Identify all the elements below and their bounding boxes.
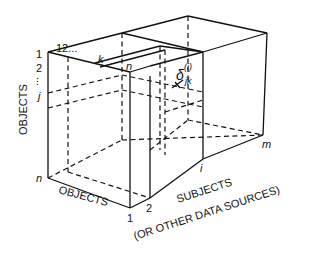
bottom-label-2: 2 [146, 202, 152, 214]
svg-text:(i): (i) [184, 62, 192, 72]
cell-label: δ (i) jk [176, 62, 192, 86]
bottom-label-1: 1 [127, 212, 133, 224]
vertical-axis-label: OBJECTS [17, 84, 29, 135]
svg-text:jk: jk [184, 76, 192, 86]
data-cube-diagram: 12... k n 1 2 ... j n OBJECTS OBJECTS 1 … [0, 0, 310, 258]
left-label-1: 1 [36, 48, 42, 60]
left-label-2: 2 [36, 62, 42, 74]
bottom-label-i: i [200, 162, 203, 174]
top-label-12: 12... [56, 42, 77, 54]
bottom-label-m: m [262, 138, 271, 150]
main-box [48, 16, 267, 198]
data-cube-svg: 12... k n 1 2 ... j n OBJECTS OBJECTS 1 … [0, 0, 310, 258]
top-label-k: k [98, 53, 104, 65]
left-label-j: j [36, 90, 41, 102]
left-label-dots: ... [28, 77, 40, 86]
front-axis-label: OBJECTS [57, 183, 109, 208]
left-label-n: n [36, 172, 42, 184]
top-label-n: n [126, 60, 132, 72]
svg-text:δ: δ [176, 67, 184, 83]
